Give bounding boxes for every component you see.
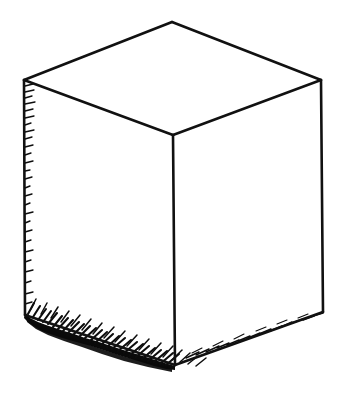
cube-drawing-canvas — [0, 0, 357, 403]
cube-illustration — [0, 0, 357, 403]
left-vertical-edge — [24, 80, 25, 315]
